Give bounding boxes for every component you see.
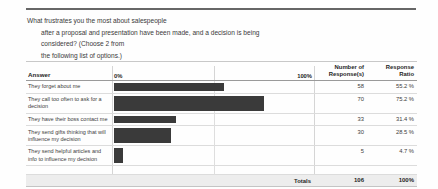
- results-table: Answer 0% 100% Number of Response(s) Res…: [26, 61, 417, 187]
- table-row: They send gifts thinking that will influ…: [26, 126, 417, 146]
- row-bar-cell: [112, 94, 315, 113]
- spacer-ratio: [369, 166, 417, 174]
- row-response-count: 58: [315, 81, 369, 93]
- bar-4: [114, 148, 123, 163]
- row-response-count: 5: [315, 146, 369, 165]
- bar-3: [114, 128, 171, 143]
- bar-track: [114, 148, 313, 163]
- row-answer-label: They forget about me: [26, 81, 112, 93]
- bar-track: [114, 128, 313, 143]
- bar-2: [114, 116, 176, 124]
- scale-label-min: 0%: [114, 73, 122, 79]
- totals-row: Totals 106 100%: [26, 175, 417, 187]
- bar-0: [114, 83, 224, 91]
- spacer-num: [315, 166, 369, 174]
- row-bar-cell: [112, 126, 315, 145]
- row-bar-cell: [112, 146, 315, 165]
- spacer-bar: [112, 166, 315, 174]
- table-spacer-row: [26, 166, 417, 175]
- spacer-answer: [26, 166, 112, 174]
- table-row: They call too often to ask for a decisio…: [26, 94, 417, 114]
- totals-response-ratio: 100%: [369, 177, 417, 184]
- totals-response-count: 106: [315, 177, 369, 184]
- bar-track: [114, 116, 313, 124]
- question-line-4: the following list of options.): [41, 50, 357, 62]
- row-answer-label: They send helpful articles and info to i…: [26, 146, 112, 165]
- scale-labels: 0% 100%: [112, 71, 315, 79]
- row-response-count: 30: [315, 126, 369, 145]
- header-response-ratio: Response Ratio: [369, 62, 417, 80]
- header-answer: Answer: [26, 69, 112, 80]
- bar-track: [114, 83, 313, 91]
- row-answer-label: They have their boss contact me: [26, 114, 112, 126]
- question-line-3: considered? (Choose 2 from: [41, 38, 357, 50]
- row-answer-label: They send gifts thinking that will influ…: [26, 126, 112, 145]
- row-response-ratio: 4.7 %: [369, 146, 417, 165]
- header-number-of-responses: Number of Response(s): [315, 62, 369, 80]
- bar-track: [114, 96, 313, 111]
- totals-label: Totals: [294, 178, 311, 184]
- question-text: What frustrates you the most about sales…: [27, 15, 357, 61]
- row-response-ratio: 55.2 %: [369, 81, 417, 93]
- row-response-ratio: 31.4 %: [369, 114, 417, 126]
- row-response-ratio: 75.2 %: [369, 94, 417, 113]
- question-line-1: What frustrates you the most about sales…: [27, 15, 357, 27]
- survey-results-page: What frustrates you the most about sales…: [0, 0, 438, 189]
- bar-1: [114, 96, 264, 111]
- row-bar-cell: [112, 81, 315, 93]
- row-response-count: 33: [315, 114, 369, 126]
- row-response-count: 70: [315, 94, 369, 113]
- gridline-mid: [214, 166, 215, 175]
- table-row: They send helpful articles and info to i…: [26, 146, 417, 166]
- row-answer-label: They call too often to ask for a decisio…: [26, 94, 112, 113]
- table-row: They have their boss contact me 33 31.4 …: [26, 114, 417, 127]
- row-bar-cell: [112, 114, 315, 126]
- table-row: They forget about me 58 55.2 %: [26, 81, 417, 94]
- scale-label-max: 100%: [297, 73, 312, 79]
- question-line-2: after a proposal and presentation have b…: [41, 27, 357, 39]
- top-divider: [26, 8, 416, 10]
- row-response-ratio: 28.5 %: [369, 126, 417, 145]
- table-header-row: Answer 0% 100% Number of Response(s) Res…: [26, 61, 417, 81]
